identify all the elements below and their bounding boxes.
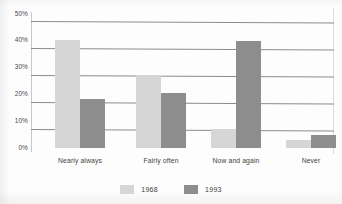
x-axis: Nearly always Fairly often Now and again…	[31, 157, 334, 171]
bar-never-1968[interactable]	[286, 140, 311, 148]
bar-never-1993[interactable]	[311, 135, 336, 149]
y-tick-label-20: 20%	[2, 90, 28, 97]
x-tick-label-now-and-again: Now and again	[197, 157, 275, 164]
scan-artifact-top	[0, 0, 342, 6]
bar-chart: 50% 40% 30% 20% 10% 0%	[0, 0, 342, 204]
legend-item-1993[interactable]: 1993	[184, 185, 222, 194]
bar-nearly-always-1993[interactable]	[80, 99, 105, 148]
y-tick-label-50: 50%	[2, 10, 28, 17]
legend-item-1968[interactable]: 1968	[120, 185, 158, 194]
bars-layer	[31, 10, 334, 148]
x-tick-label-never: Never	[272, 157, 342, 164]
x-tick-label-nearly-always: Nearly always	[41, 157, 119, 164]
bar-now-and-again-1993[interactable]	[236, 41, 261, 148]
bar-nearly-always-1968[interactable]	[55, 40, 80, 148]
y-tick-label-0: 0%	[2, 144, 28, 151]
legend-label-1993: 1993	[205, 186, 222, 193]
y-axis: 50% 40% 30% 20% 10% 0%	[0, 10, 28, 154]
y-tick-label-40: 40%	[2, 36, 28, 43]
legend-label-1968: 1968	[141, 186, 158, 193]
legend: 1968 1993	[0, 181, 342, 197]
legend-swatch-icon-1993	[184, 185, 198, 194]
bar-now-and-again-1968[interactable]	[211, 129, 236, 148]
legend-swatch-icon-1968	[120, 185, 134, 194]
y-tick-label-30: 30%	[2, 63, 28, 70]
y-tick-label-10: 10%	[2, 117, 28, 124]
x-tick-label-fairly-often: Fairly often	[122, 157, 200, 164]
bar-fairly-often-1993[interactable]	[161, 93, 186, 148]
bar-fairly-often-1968[interactable]	[136, 75, 161, 148]
